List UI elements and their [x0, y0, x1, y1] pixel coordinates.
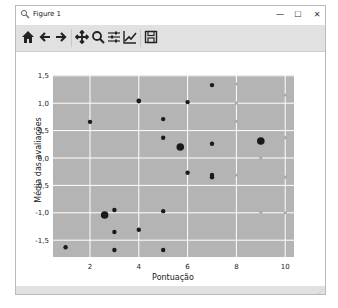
faint-data-point: [259, 211, 262, 214]
data-point: [176, 143, 184, 151]
back-icon[interactable]: [38, 30, 52, 46]
y-tick-label: -1,0: [35, 209, 49, 217]
x-axis-label: Pontuação: [152, 273, 194, 282]
data-point: [161, 209, 165, 213]
zoom-icon[interactable]: [91, 30, 105, 46]
faint-data-point: [284, 93, 287, 96]
y-axis-label: Média das avaliações: [33, 117, 43, 203]
data-point: [161, 248, 165, 252]
title-bar[interactable]: Figure 1 — ☐ ✕: [16, 6, 325, 24]
figure-canvas[interactable]: 2468101,51,00,50,0-0,5-1,0-1,5 Média das…: [16, 52, 325, 286]
faint-data-point: [284, 176, 287, 179]
minimize-button[interactable]: —: [272, 8, 288, 21]
y-tick-label: 1,5: [38, 72, 49, 80]
plot-area[interactable]: [53, 75, 294, 257]
home-icon[interactable]: [21, 30, 35, 46]
app-icon: [20, 9, 30, 19]
x-tick-label: 2: [88, 263, 92, 271]
x-tick-label: 8: [234, 263, 238, 271]
data-point: [161, 117, 165, 121]
faint-data-point: [259, 156, 262, 159]
faint-data-point: [235, 173, 238, 176]
pan-icon[interactable]: [75, 30, 89, 46]
figure-window: Figure 1 — ☐ ✕ 24: [15, 5, 326, 295]
data-point: [210, 142, 214, 146]
close-button[interactable]: ✕: [309, 8, 325, 21]
forward-icon[interactable]: [54, 30, 68, 46]
data-point: [210, 175, 214, 179]
y-tick-label: 1,0: [38, 100, 49, 108]
maximize-button[interactable]: ☐: [290, 8, 306, 21]
faint-data-point: [284, 136, 287, 139]
configure-subplots-icon[interactable]: [107, 30, 121, 46]
toolbar-separator: [140, 29, 141, 47]
faint-data-point: [235, 102, 238, 105]
data-point: [185, 100, 189, 104]
data-point: [112, 248, 116, 252]
toolbar-separator: [71, 29, 72, 47]
data-point: [185, 171, 189, 175]
data-point: [88, 120, 92, 124]
background-strip: [0, 0, 15, 308]
data-point: [136, 99, 141, 104]
data-point: [63, 245, 67, 249]
x-tick-label: 4: [137, 263, 142, 271]
edit-axis-icon[interactable]: [123, 30, 137, 46]
scatter-chart[interactable]: 2468101,51,00,50,0-0,5-1,0-1,5 Média das…: [16, 52, 325, 286]
resize-grip-icon[interactable]: ⋰: [318, 287, 324, 294]
status-bar: ⋰: [16, 286, 325, 294]
y-tick-label: -1,5: [35, 237, 49, 245]
faint-data-point: [235, 120, 238, 123]
x-tick-label: 6: [185, 263, 190, 271]
data-point: [101, 211, 109, 219]
navigation-toolbar: [16, 25, 325, 52]
window-title: Figure 1: [33, 9, 61, 19]
data-point: [137, 228, 141, 232]
data-point: [112, 208, 116, 212]
data-point: [257, 137, 265, 145]
data-point: [161, 136, 165, 140]
faint-data-point: [284, 211, 287, 214]
data-point: [210, 83, 214, 87]
save-icon[interactable]: [144, 30, 158, 46]
faint-data-point: [235, 82, 238, 85]
x-tick-label: 10: [281, 263, 290, 271]
data-point: [112, 230, 116, 234]
